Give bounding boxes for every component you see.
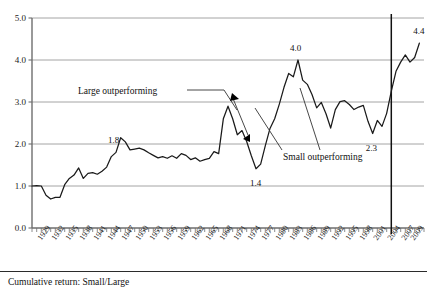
chart-svg (0, 0, 427, 292)
data-point-label: 1.4 (250, 179, 261, 188)
arrowhead-down-small (230, 93, 239, 101)
annotation-small-outperforming: Small outperforming (283, 152, 362, 162)
data-point-label: 4.0 (290, 44, 301, 53)
chart-figure: 0.01.02.03.04.05.0 192919321935193819411… (0, 0, 427, 292)
caption-divider (0, 271, 427, 272)
y-tick-label: 4.0 (0, 56, 26, 65)
y-tick-label: 0.0 (0, 224, 26, 233)
leader-line-small-b (300, 88, 320, 150)
data-series-line (32, 43, 419, 199)
annotation-large-outperforming: Large outperforming (78, 86, 157, 96)
data-point-label: 1.8 (108, 136, 119, 145)
data-point-label: 2.3 (366, 144, 377, 153)
chart-caption: Cumulative return: Small/Large (8, 277, 129, 287)
chart-plot-area (0, 0, 427, 292)
y-tick-label: 3.0 (0, 98, 26, 107)
y-tick-label: 5.0 (0, 14, 26, 23)
leader-line-large (187, 90, 237, 110)
y-tick-label: 2.0 (0, 140, 26, 149)
y-tick-label: 1.0 (0, 182, 26, 191)
data-point-label: 4.4 (413, 27, 424, 36)
